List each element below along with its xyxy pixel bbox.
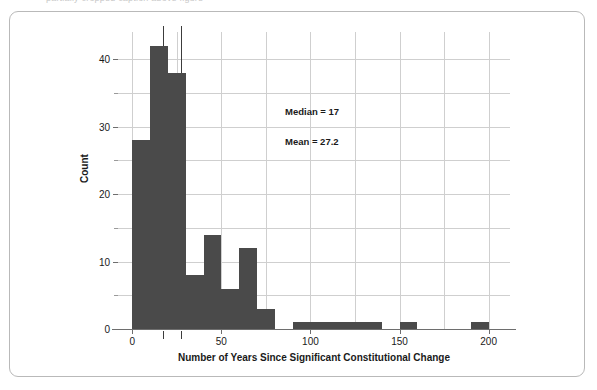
x-axis-tick-label: 200 [480, 336, 497, 347]
y-axis-tick-minor [114, 160, 118, 161]
gridline-vertical [221, 32, 222, 329]
reference-line-mean [181, 26, 182, 73]
histogram-bar [239, 248, 257, 329]
plot-area [118, 32, 510, 329]
gridline-vertical [400, 32, 401, 329]
y-axis-label: Count [79, 154, 90, 183]
y-axis-tick-label: 10 [96, 256, 110, 267]
x-axis-tick-label: 50 [216, 336, 227, 347]
gridline-vertical [489, 32, 490, 329]
gridline-vertical [444, 32, 445, 329]
y-axis-tick-minor [114, 295, 118, 296]
histogram-bar [346, 322, 364, 329]
x-axis-tick-label: 100 [302, 336, 319, 347]
y-axis-tick [113, 194, 118, 195]
reference-line-median [163, 26, 164, 46]
histogram-bar [328, 322, 346, 329]
y-axis-tick-label: 0 [96, 324, 110, 335]
y-axis-tick-label: 40 [96, 54, 110, 65]
y-axis-tick [113, 127, 118, 128]
x-axis-tick [310, 330, 311, 334]
histogram-bar [150, 46, 168, 330]
x-axis-tick [132, 330, 133, 334]
annotation-median: Median = 17 [285, 106, 339, 117]
y-axis-tick [113, 59, 118, 60]
y-axis-tick [113, 329, 118, 330]
x-axis-tick [400, 330, 401, 334]
histogram-bar [310, 322, 328, 329]
histogram-bar [471, 322, 489, 329]
x-axis-line [112, 329, 516, 330]
histogram-bar [257, 309, 275, 329]
x-axis-tick-median [163, 331, 164, 339]
annotation-mean: Mean = 27.2 [285, 136, 339, 147]
gridline-vertical [266, 32, 267, 329]
histogram-bar [168, 73, 186, 330]
histogram-bar [293, 322, 311, 329]
x-axis-label: Number of Years Since Significant Consti… [118, 352, 510, 363]
y-axis-tick-label: 20 [96, 189, 110, 200]
x-axis-tick-label: 0 [129, 336, 135, 347]
y-axis-tick-minor [114, 228, 118, 229]
gridline-vertical [310, 32, 311, 329]
histogram-bar [204, 235, 222, 330]
y-axis-tick [113, 262, 118, 263]
x-axis-tick [489, 330, 490, 334]
histogram-bar [186, 275, 204, 329]
x-axis-tick-mean [181, 331, 182, 339]
gridline-vertical [355, 32, 356, 329]
histogram-bar [132, 140, 150, 329]
y-axis-tick-label: 30 [96, 121, 110, 132]
x-axis-tick [221, 330, 222, 334]
x-axis-tick-label: 150 [391, 336, 408, 347]
histogram-bar [364, 322, 382, 329]
histogram-bar [221, 289, 239, 330]
histogram-chart: Count Number of Years Since Significant … [0, 0, 597, 390]
gridline-horizontal [118, 59, 510, 60]
histogram-bar [400, 322, 418, 329]
y-axis-tick-minor [114, 93, 118, 94]
